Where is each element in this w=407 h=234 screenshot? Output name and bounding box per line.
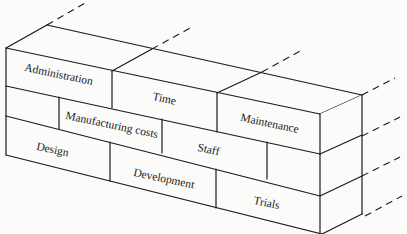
side-face bbox=[320, 95, 362, 234]
brick-wall-diagram: Administration Time Maintenance Manufact… bbox=[0, 0, 407, 234]
wall-drawing bbox=[0, 0, 407, 234]
